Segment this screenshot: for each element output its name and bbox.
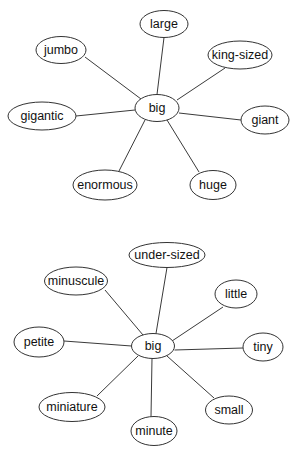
node-label: king-sized xyxy=(212,48,268,62)
center-node-label: big xyxy=(145,339,162,353)
node-label: tiny xyxy=(253,340,273,354)
node-large: large xyxy=(140,11,188,38)
edge-gigantic xyxy=(76,110,135,116)
node-label: under-sized xyxy=(134,248,199,262)
node-label: petite xyxy=(24,335,55,349)
node-little: little xyxy=(215,280,257,308)
node-minute: minute xyxy=(131,417,177,446)
node-giant: giant xyxy=(241,106,289,134)
node-gigantic: gigantic xyxy=(8,102,76,130)
node-label: minute xyxy=(135,424,173,438)
edge-enormous xyxy=(119,120,145,171)
edge-small xyxy=(167,356,214,398)
node-minuscule: minuscule xyxy=(45,267,108,295)
node-label: miniature xyxy=(46,400,97,414)
node-petite: petite xyxy=(14,327,64,357)
top-word-web: big large jumbo king-sized gigantic gian… xyxy=(8,11,289,201)
node-label: enormous xyxy=(77,178,133,192)
node-label: small xyxy=(214,403,243,417)
node-label: giant xyxy=(251,113,279,127)
edge-king-sized xyxy=(177,68,225,100)
edge-little xyxy=(172,307,223,341)
node-label: minuscule xyxy=(48,274,104,288)
node-label: huge xyxy=(199,178,227,192)
center-node-big-top: big xyxy=(135,95,179,122)
edge-petite xyxy=(64,341,132,346)
node-enormous: enormous xyxy=(73,170,137,200)
node-king-sized: king-sized xyxy=(208,41,272,69)
edge-miniature xyxy=(97,356,138,396)
node-jumbo: jumbo xyxy=(36,37,86,64)
node-miniature: miniature xyxy=(39,393,105,422)
node-huge: huge xyxy=(190,171,236,200)
node-label: little xyxy=(225,287,247,301)
node-label: gigantic xyxy=(20,109,63,123)
edge-giant xyxy=(179,113,241,120)
edge-tiny xyxy=(175,348,244,350)
center-node-label: big xyxy=(149,101,166,115)
edge-huge xyxy=(167,120,199,172)
node-under-sized: under-sized xyxy=(129,243,205,268)
node-tiny: tiny xyxy=(243,333,283,361)
edge-minuscule xyxy=(105,290,143,335)
edge-under-sized xyxy=(156,268,167,334)
edge-minute xyxy=(151,359,152,417)
node-small: small xyxy=(206,396,253,424)
bottom-word-web: big under-sized minuscule little petite … xyxy=(14,243,283,446)
word-web-diagram: big large jumbo king-sized gigantic gian… xyxy=(0,0,295,453)
edge-large xyxy=(157,38,164,95)
node-label: jumbo xyxy=(43,43,78,57)
edge-jumbo xyxy=(85,57,141,99)
center-node-big-bottom: big xyxy=(132,334,175,359)
node-label: large xyxy=(150,17,178,31)
